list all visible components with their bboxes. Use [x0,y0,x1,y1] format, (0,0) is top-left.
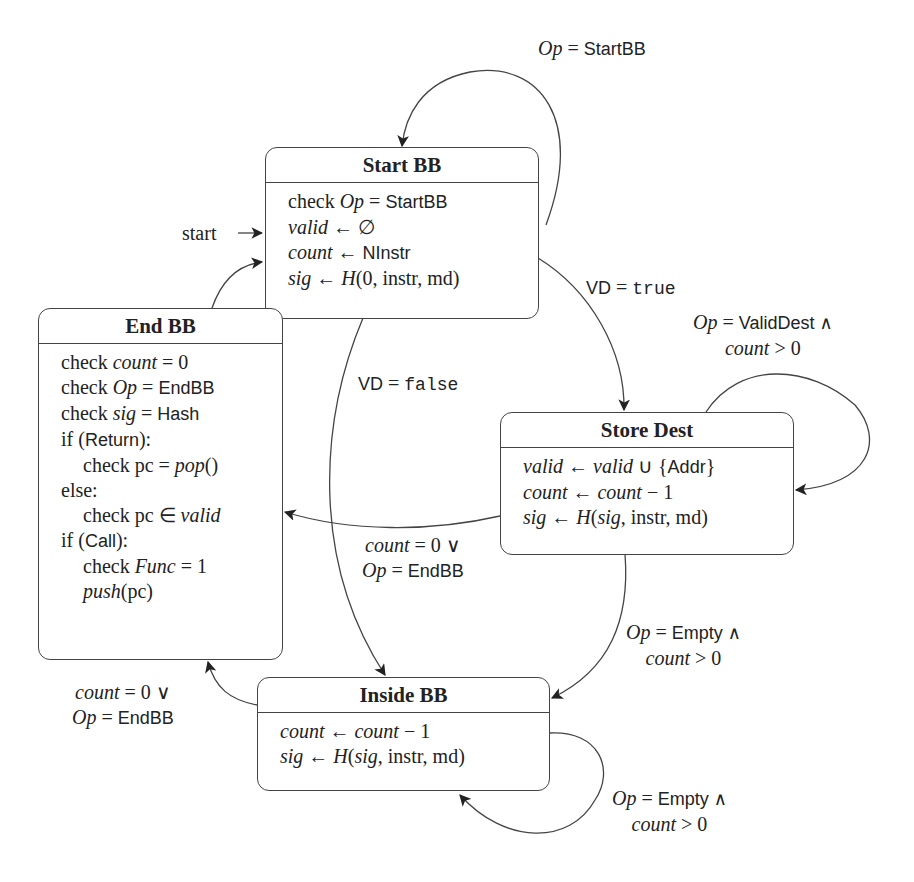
cmp: > 0 [769,337,800,359]
op: () [205,454,218,476]
edge-inside-to-end [208,662,257,705]
var: valid [288,216,328,238]
op: ← [563,455,593,477]
state-body: count ← count − 1 sig ← H(sig, instr, md… [258,713,549,769]
count-var: count [365,534,409,556]
kw: check pc = [83,454,175,476]
kw: check [61,402,113,424]
vd-value: true [632,279,675,299]
op-var: Op [626,621,650,643]
state-line: valid ← valid ∪ {Addr} [523,454,793,480]
state-line: check count = 0 [61,350,282,375]
op: ): [116,529,128,551]
label-inside-to-end: count = 0 ∨ Op = EndBB [72,680,174,731]
start-text: start [182,222,216,244]
op-value: EndBB [118,708,174,728]
op-value: ValidDest ∧ [739,313,833,333]
eq: = [96,706,117,728]
kw: else: [61,479,98,501]
args: , instr, md) [621,506,708,528]
var: sig [354,745,377,767]
var: Op [340,190,364,212]
op-value: Empty ∧ [658,789,727,809]
op: ← [332,241,362,263]
op: ← [311,267,341,289]
kw: check pc ∈ [83,504,181,526]
state-line: count ← count − 1 [280,719,549,744]
value: NInstr [362,243,410,263]
var: Op [113,376,137,398]
value: Hash [157,404,199,424]
state-line: check sig = Hash [61,401,282,427]
value: Return [85,430,139,450]
count-var: count [646,647,690,669]
op: ← [546,506,576,528]
args: (0, instr, md) [356,267,460,289]
op-var: Op [612,787,636,809]
count-var: count [632,813,676,835]
kw: check [61,376,113,398]
func: H [341,267,355,289]
cmp: = 0 ∨ [119,681,170,703]
op-var: Op [72,706,96,728]
kw: if ( [61,529,85,551]
kw: check [83,555,135,577]
state-end-bb: End BB check count = 0 check Op = EndBB … [38,308,283,660]
op: = 1 [176,555,207,577]
op-value: Empty ∧ [672,623,741,643]
kw: check [61,351,113,373]
op-var: Op [538,37,562,59]
state-line: else: [61,478,282,503]
label-store-to-end: count = 0 ∨ Op = EndBB [362,533,464,584]
op: ← [328,216,358,238]
eq: = [636,787,657,809]
var: valid [181,504,221,526]
state-inside-bb: Inside BB count ← count − 1 sig ← H(sig,… [257,677,550,791]
value: Addr [668,457,706,477]
op: = [137,376,158,398]
eq: = [611,276,632,298]
kw: check [288,190,340,212]
op-value: StartBB [584,39,646,59]
op: − 1 [399,720,430,742]
args: , instr, md) [378,745,465,767]
state-title: Store Dest [501,413,793,448]
label-inside-self: Op = Empty ∧ count > 0 [612,786,727,837]
state-line: push(pc) [61,579,282,604]
value: StartBB [385,192,447,212]
eq: = [717,311,738,333]
value: EndBB [158,378,214,398]
eq: = [650,621,671,643]
vd-var: VD [586,278,611,298]
op: ← [303,745,333,767]
eq: = [383,372,404,394]
state-body: valid ← valid ∪ {Addr} count ← count − 1… [501,448,793,530]
edge-end-to-start [212,262,262,308]
func: push [83,580,121,602]
label-start: start [182,221,216,246]
state-line: if (Call): [61,528,282,554]
cmp: > 0 [690,647,721,669]
var: sig [597,506,620,528]
state-line: valid ← ∅ [288,215,538,240]
state-store-dest: Store Dest valid ← valid ∪ {Addr} count … [500,412,794,555]
count-var: count [725,337,769,359]
vd-value: false [404,375,458,395]
func: H [576,506,590,528]
label-vd-true: VD = true [586,275,676,302]
count-var: count [75,681,119,703]
var: sig [288,267,311,289]
state-line: check pc ∈ valid [61,503,282,528]
state-line: sig ← H(sig, instr, md) [280,744,549,769]
label-start-self: Op = StartBB [538,36,646,62]
edge-store-to-end [285,512,500,528]
state-title: Start BB [266,148,538,183]
func: pop [175,454,205,476]
state-line: sig ← H(sig, instr, md) [523,505,793,530]
state-line: if (Return): [61,427,282,453]
var: valid [523,455,563,477]
state-line: count ← count − 1 [523,480,793,505]
vd-var: VD [358,374,383,394]
op: = [364,190,385,212]
eq: = [386,559,407,581]
